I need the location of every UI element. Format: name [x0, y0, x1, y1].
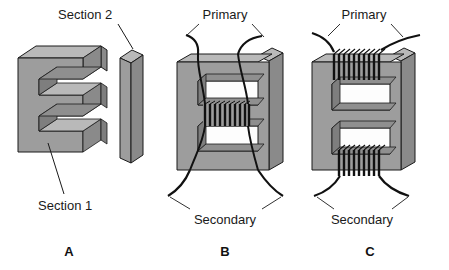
section-2-label: Section 2: [58, 7, 112, 22]
panel-c-lower-window-top-ledge: [332, 121, 396, 128]
panel-a-letter: A: [64, 244, 74, 259]
panel-b-i-bar-side-face: [269, 53, 283, 170]
panel-b-secondary-label: Secondary: [194, 212, 257, 227]
e-core-bottom-arm-end-face: [101, 119, 107, 144]
panel-c-secondary-label: Secondary: [331, 212, 394, 227]
figure-root: Section 2 Section 1 A: [0, 0, 449, 270]
panel-c-primary-label: Primary: [342, 7, 387, 22]
section-1-label: Section 1: [38, 198, 92, 213]
i-bar-side-face: [131, 55, 143, 163]
e-core-middle-arm-end-face: [101, 83, 107, 108]
panel-c-center-arm-top: [332, 103, 396, 110]
e-core-top-arm-end-face: [101, 46, 107, 71]
panel-b-core-top-face: [177, 54, 272, 62]
panel-b-letter: B: [220, 244, 229, 259]
panel-b-bottom-arm-top: [198, 144, 264, 151]
panel-a-e-core: [18, 46, 107, 152]
panel-c-i-bar-side-face: [401, 53, 415, 170]
panel-b-upper-window-top-ledge: [198, 74, 264, 81]
panel-c-bottom-coil-turns: [339, 150, 379, 176]
i-bar-front-face: [120, 58, 131, 163]
panel-b-center-leg-coil: [203, 101, 250, 126]
panel-c-letter: C: [365, 244, 375, 259]
ei-core-figure: Section 2 Section 1 A: [0, 0, 449, 270]
panel-a-i-bar: [120, 50, 143, 163]
panel-b-primary-label: Primary: [203, 7, 248, 22]
